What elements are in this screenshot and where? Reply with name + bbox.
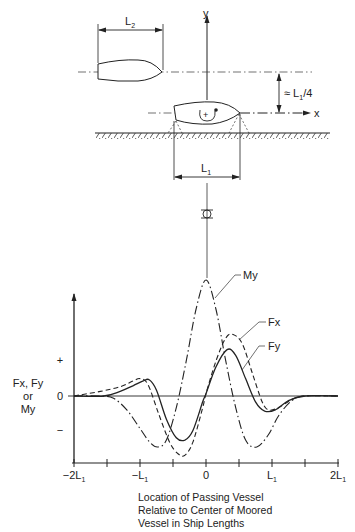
series-fy-line [74,349,338,441]
x-tick-labels: −2L1−L10L12L1 [63,469,346,483]
l1-label: L1 [201,162,211,176]
separation-label: ≈ L1/4 [284,87,312,101]
x-tick-label: 2L1 [330,469,346,483]
moment-arrow-head [214,108,218,112]
schematic: y L2 x ≈ L1/4 + [78,7,330,278]
my-callout-leader [215,275,241,298]
y-tick-label: 0 [57,390,63,402]
quay-hatching [95,133,330,139]
chart: −2L1−L10L12L1 +0− Fx, Fy or My My Fx Fy [13,269,346,483]
x-tick-label: L1 [267,469,277,483]
caption-line-2: Relative to Center of Moored [138,504,272,517]
series-my-line [74,280,338,447]
fy-callout-leader [242,346,265,370]
caption-line-3: Vessel in Ship Lengths [138,517,272,530]
fx-callout-label: Fx [268,316,281,328]
x-tick-label: 0 [203,469,209,481]
caption-line-1: Location of Passing Vessel [138,491,272,504]
schematic-y-label: y [203,7,209,19]
fy-callout-label: Fy [268,340,281,352]
y-tick-label: − [57,424,63,436]
x-tick-label: −L1 [132,469,149,483]
y-tick-label: + [57,354,63,366]
passing-vessel-hull [98,60,162,81]
figure: y L2 x ≈ L1/4 + [0,0,355,532]
l2-label: L2 [125,15,135,29]
y-label-line-2: or [23,390,33,402]
y-tick-labels: +0− [57,354,63,436]
my-callout-label: My [243,269,258,281]
series-group [74,280,338,456]
y-label-line-3: My [21,403,36,415]
schematic-x-label: x [314,107,320,119]
moment-sign: + [203,110,208,120]
fx-callout-leader [239,322,266,340]
x-axis-caption: Location of Passing Vessel Relative to C… [138,491,272,530]
y-label-line-1: Fx, Fy [13,377,44,389]
x-tick-label: −2L1 [63,469,86,483]
